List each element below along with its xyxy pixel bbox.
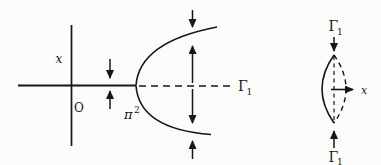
gamma-bottom-subscript: 1 xyxy=(337,157,343,165)
gamma-top-subscript: 1 xyxy=(337,27,343,37)
gamma-label-subscript: 1 xyxy=(247,87,253,97)
lower-branch-curve xyxy=(136,86,211,135)
right-limit-cycle-diagram: Γ 1 x Γ 1 xyxy=(322,18,368,165)
pi-label-superscript: 2 xyxy=(134,105,140,115)
right-x-axis-label: x xyxy=(361,84,368,97)
gamma1-top-label: Γ 1 xyxy=(329,18,343,37)
figure-canvas: x O π 2 Γ 1 Γ 1 xyxy=(0,0,381,165)
upper-branch-curve xyxy=(136,27,217,86)
left-bifurcation-diagram: x O π 2 Γ 1 xyxy=(18,10,252,159)
gamma1-bottom-label: Γ 1 xyxy=(329,149,343,165)
gamma1-branch-label: Γ 1 xyxy=(238,78,252,97)
bifurcation-figure: x O π 2 Γ 1 Γ 1 xyxy=(0,0,381,165)
pi-squared-label: π 2 xyxy=(123,105,140,122)
pi-label-base: π xyxy=(123,107,133,122)
x-axis-label: x xyxy=(56,52,63,66)
origin-label: O xyxy=(74,101,84,115)
